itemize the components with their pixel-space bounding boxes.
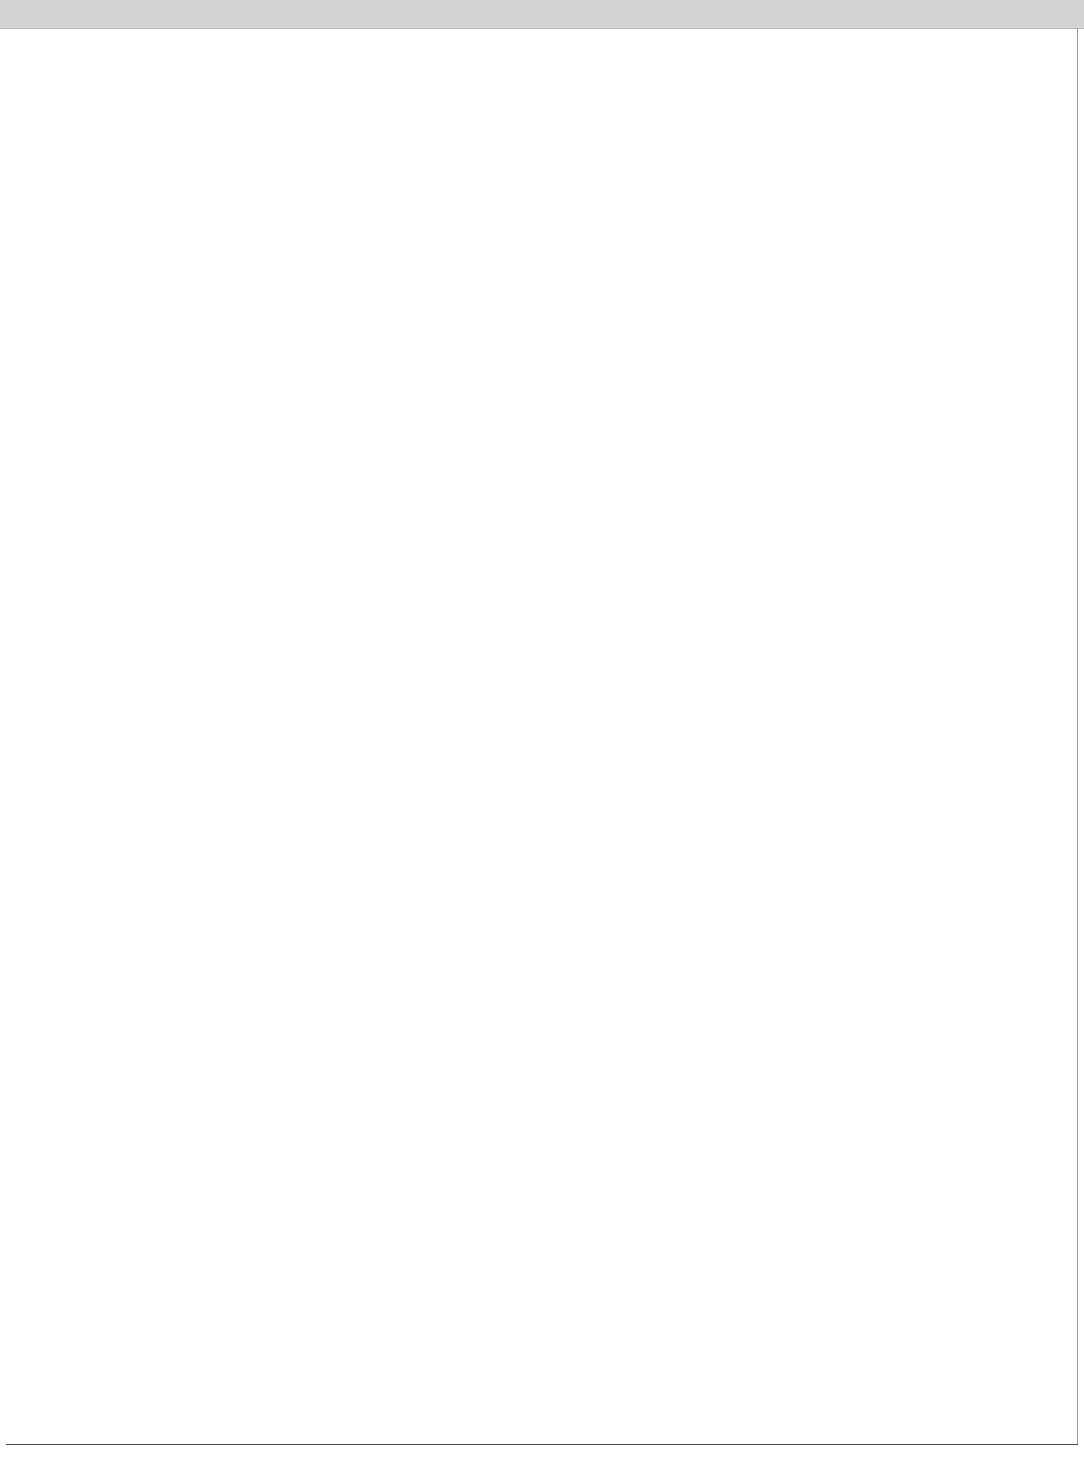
page-rule-bottom bbox=[6, 1444, 1078, 1445]
glacier-fluctuation-chart bbox=[0, 0, 1084, 1468]
caption-bar bbox=[0, 0, 1084, 28]
legend-arrow bbox=[0, 0, 1084, 1468]
page-rule-top bbox=[0, 28, 1084, 29]
page-rule-right bbox=[1077, 28, 1078, 1444]
